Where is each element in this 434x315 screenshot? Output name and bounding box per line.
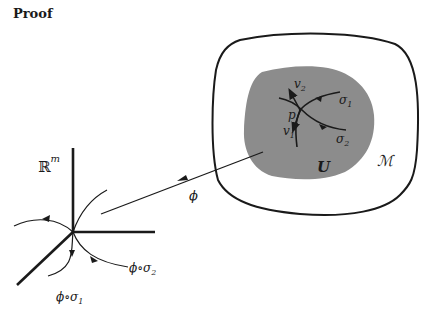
map-phi-label: ϕ bbox=[189, 188, 198, 203]
point-p-label: p bbox=[288, 108, 296, 122]
region-u-label: U bbox=[317, 158, 331, 176]
phi-sigma-2-label: ϕ∘σ2 bbox=[129, 261, 156, 277]
manifold-m-label: ℳ bbox=[377, 152, 395, 170]
image-curve-upper bbox=[73, 190, 107, 232]
image-curve-left bbox=[14, 220, 73, 232]
image-curve-left-arrow-icon bbox=[42, 215, 50, 222]
map-phi-line bbox=[101, 152, 263, 214]
phi-sigma-1-label: ϕ∘σ1 bbox=[56, 290, 83, 306]
map-phi-arrow-icon bbox=[177, 175, 188, 181]
open-set-region bbox=[244, 66, 374, 179]
image-curve-phi-sigma-2 bbox=[73, 232, 128, 267]
proof-diagram: v2 p v1 σ1 σ2 U ℳ ϕ ℝm ϕ∘σ2 ϕ∘σ1 bbox=[0, 0, 434, 315]
image-curve-phi-sigma-1-arrow-icon bbox=[69, 250, 75, 257]
axis-diagonal bbox=[17, 232, 73, 285]
image-curve-phi-sigma-1 bbox=[48, 232, 73, 276]
rm-label: ℝm bbox=[38, 153, 60, 176]
